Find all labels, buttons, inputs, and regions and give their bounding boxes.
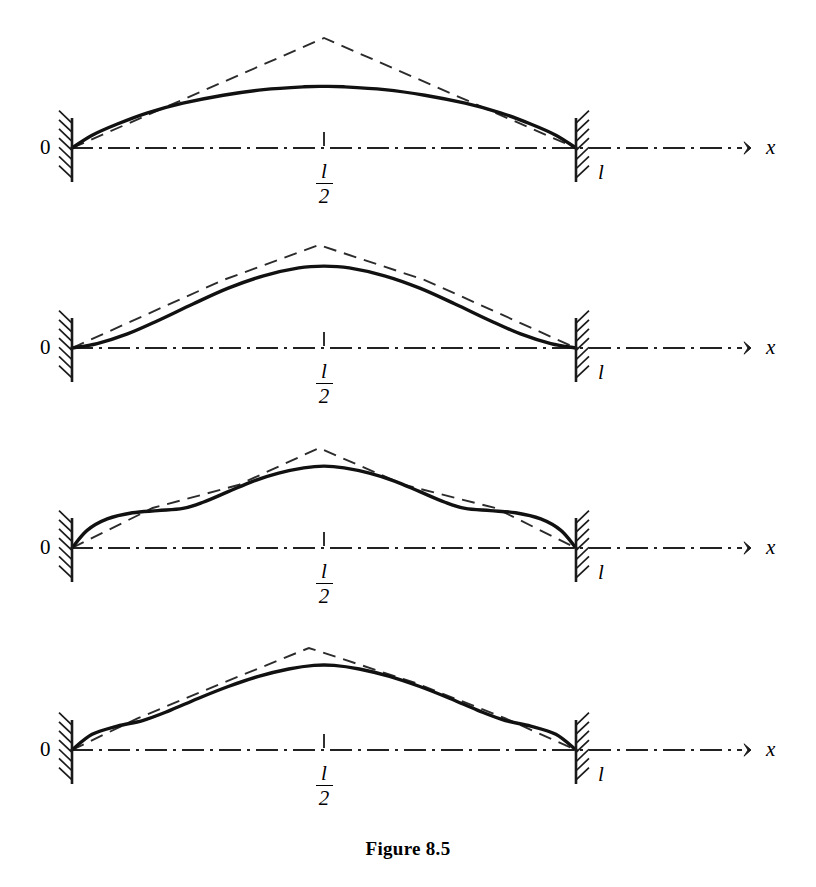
fixed-support-right [576,111,589,182]
panel-canvas [0,602,816,802]
x-axis-label: x [766,739,775,760]
span-length-label: l [598,162,604,183]
panel-many-element-approximation: 0xll2 [0,602,816,802]
origin-label: 0 [40,537,51,558]
midpoint-fraction-label: l2 [309,762,339,809]
x-axis-label: x [766,337,775,358]
fixed-support-left [59,713,72,784]
fixed-support-right [576,311,589,382]
panel-canvas [0,200,816,400]
fraction-numerator: l [309,762,339,784]
fraction-denominator: 2 [309,787,339,809]
origin-label: 0 [40,739,51,760]
panel-two-element-approximation: 0xll2 [0,200,816,400]
fixed-support-left [59,111,72,182]
panel-canvas [0,0,816,200]
piecewise-linear-approximation [72,38,576,148]
figure-8-5: 0xll20xll20xll20xll2 [0,0,816,887]
figure-caption: Figure 8.5 [0,838,816,860]
x-axis-arrowhead [744,542,751,554]
span-length-label: l [598,562,604,583]
fraction-numerator: l [309,160,339,182]
span-length-label: l [598,362,604,383]
origin-label: 0 [40,137,51,158]
panel-canvas [0,400,816,600]
fixed-support-left [59,511,72,582]
midpoint-fraction-label: l2 [309,560,339,607]
x-axis-arrowhead [744,744,751,756]
fixed-support-right [576,713,589,784]
x-axis-arrowhead [744,342,751,354]
origin-label: 0 [40,337,51,358]
panel-one-element-approximation: 0xll2 [0,0,816,200]
span-length-label: l [598,764,604,785]
x-axis-label: x [766,137,775,158]
panel-four-element-approximation: 0xll2 [0,400,816,600]
fraction-numerator: l [309,560,339,582]
fraction-numerator: l [309,360,339,382]
fixed-support-right [576,511,589,582]
x-axis-label: x [766,537,775,558]
fixed-support-left [59,311,72,382]
x-axis-arrowhead [744,142,751,154]
